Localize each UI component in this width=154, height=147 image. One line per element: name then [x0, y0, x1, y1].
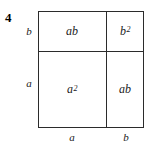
region-label-top-right: b2 [106, 11, 144, 51]
region-base-top-left: ab [66, 24, 78, 39]
edge-label-left-top: b [22, 21, 36, 41]
problem-number-label: 4 [5, 10, 19, 26]
region-base-bottom-right: ab [119, 82, 131, 97]
region-base-bottom-left: a [67, 82, 73, 97]
region-label-bottom-right: ab [106, 51, 144, 128]
edge-label-bottom-right: b [116, 129, 136, 145]
region-base-top-right: b [120, 24, 126, 39]
region-label-top-left: ab [38, 11, 106, 51]
edge-label-bottom-left: a [62, 129, 82, 145]
area-model-figure: 4 ab b2 a2 ab b a a b [0, 0, 154, 147]
edge-label-left-bottom: a [22, 73, 36, 93]
region-label-bottom-left: a2 [38, 51, 106, 128]
